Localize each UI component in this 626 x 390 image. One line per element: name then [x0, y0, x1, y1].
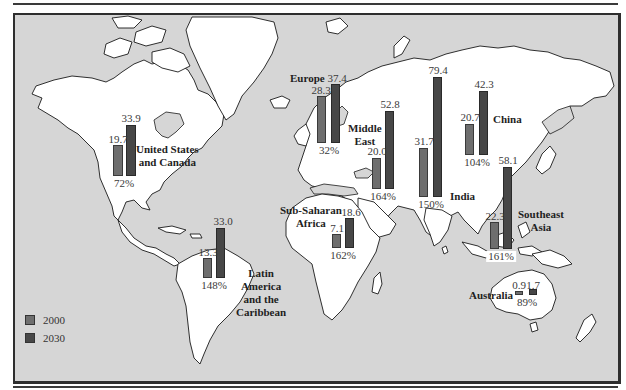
pct-middle-east: 164%: [370, 191, 396, 202]
pct-se-asia: 161%: [486, 251, 516, 262]
legend-item-2030: 2030: [25, 329, 65, 347]
bar-ss-africa-2000: [332, 234, 341, 248]
land-new-guinea: [532, 250, 572, 268]
value-europe-2030: 37.4: [327, 73, 346, 84]
land-iceland: [270, 96, 290, 108]
region-label-india: India: [450, 190, 475, 203]
land-india: [424, 208, 452, 246]
pct-ss-africa: 162%: [330, 250, 356, 261]
region-label-australia: Australia: [469, 289, 513, 302]
pct-australia: 89%: [517, 297, 537, 308]
top-rule: [13, 3, 618, 5]
bar-china-2000: [465, 124, 474, 155]
value-ss-africa-2030: 18.6: [341, 207, 360, 218]
land-arctic-islands: [104, 38, 132, 58]
pct-india: 150%: [418, 199, 444, 210]
pct-latam: 148%: [201, 280, 227, 291]
bar-latam-2000: [203, 258, 212, 278]
bar-us-canada-2000: [113, 145, 123, 176]
world-map-chart: [13, 13, 621, 384]
chart-legend: 2000 2030: [25, 311, 65, 347]
value-latam-2030: 33.0: [213, 216, 232, 227]
bar-india-2000: [419, 148, 428, 197]
region-label-china: China: [493, 113, 522, 126]
region-label-us-canada: United States and Canada: [136, 143, 199, 169]
bar-india-2030: [433, 77, 442, 197]
legend-swatch-2030: [25, 333, 35, 343]
bar-europe-2030: [331, 84, 340, 143]
bar-us-canada-2030: [126, 125, 136, 176]
value-australia-2000: 0.9: [512, 280, 526, 291]
region-label-europe: Europe: [290, 72, 325, 85]
world-map-landmasses: [15, 15, 618, 381]
bar-ss-africa-2030: [345, 218, 354, 248]
value-middle-east-2030: 52.8: [380, 99, 399, 110]
value-china-2030: 42.3: [474, 79, 493, 90]
region-label-ss-africa: Sub-Saharan Africa: [280, 204, 342, 230]
value-se-asia-2000: 22.3: [485, 211, 504, 222]
land-madagascar: [372, 272, 382, 294]
bottom-rule: [13, 386, 618, 388]
pct-us-canada: 72%: [114, 178, 134, 189]
value-europe-2000: 28.3: [311, 85, 330, 96]
land-new-zealand: [576, 314, 596, 342]
region-label-middle-east: Middle East: [348, 122, 382, 148]
value-india-2000: 31.7: [414, 136, 433, 147]
pct-china: 104%: [464, 157, 490, 168]
value-china-2000: 20.7: [460, 112, 479, 123]
region-label-latam: Latin America and the Caribbean: [236, 267, 286, 319]
bar-se-asia-2030: [503, 167, 512, 249]
value-india-2030: 79.4: [428, 65, 447, 76]
bar-europe-2000: [317, 96, 326, 143]
land-japan: [536, 146, 556, 174]
value-se-asia-2030: 58.1: [498, 155, 517, 166]
value-australia-2030: 1.7: [526, 280, 540, 291]
region-label-se-asia: Southeast Asia: [518, 208, 564, 234]
legend-swatch-2000: [25, 315, 35, 325]
value-latam-2000: 13.3: [198, 247, 217, 258]
bar-china-2030: [479, 91, 488, 155]
bar-middle-east-2000: [372, 158, 381, 189]
value-us-canada-2000: 19.7: [108, 134, 127, 145]
pct-europe: 32%: [319, 145, 339, 156]
legend-label-2000: 2000: [43, 314, 65, 326]
bar-australia-2000: [515, 291, 523, 295]
legend-label-2030: 2030: [43, 332, 65, 344]
legend-item-2000: 2000: [25, 311, 65, 329]
value-us-canada-2030: 33.9: [121, 113, 140, 124]
bar-se-asia-2000: [490, 222, 499, 249]
